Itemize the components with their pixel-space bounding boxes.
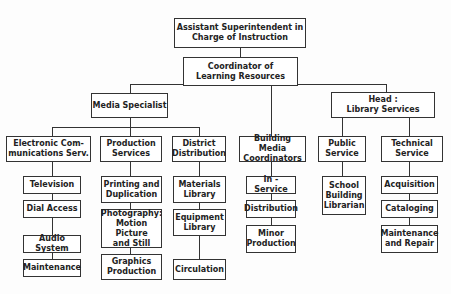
connector	[342, 162, 343, 176]
box-public: Public Service	[318, 136, 366, 162]
connector	[52, 218, 53, 235]
box-maintenance: Maintenance	[23, 259, 81, 277]
connector	[130, 118, 131, 127]
box-district: District Distribution	[172, 136, 226, 162]
connector	[298, 84, 386, 85]
box-production: Production Services	[100, 136, 162, 162]
box-acquisition: Acquisition	[381, 176, 438, 194]
connector	[409, 118, 410, 136]
connector	[130, 84, 183, 85]
connector	[199, 236, 200, 259]
connector	[199, 127, 200, 136]
box-printing: Printing and Duplication	[101, 176, 162, 203]
connector	[52, 127, 53, 136]
box-root: Assistant Superintendent in Charge of In…	[174, 18, 306, 48]
box-circulation: Circulation	[173, 259, 226, 280]
box-in-service: In - Service	[246, 176, 296, 194]
connector	[52, 127, 199, 128]
connector	[342, 118, 343, 136]
box-school-librarian: School Building Librarian	[322, 176, 366, 215]
box-dial-access: Dial Access	[23, 200, 81, 218]
box-head-library: Head : Library Services	[331, 92, 435, 118]
box-maintenance-repair: Maintenance and Repair	[381, 225, 438, 253]
connector	[386, 84, 387, 92]
box-minor-production: Minor Production	[246, 225, 296, 253]
connector	[130, 127, 131, 136]
box-photography: Photography: Motion Picture and Still	[101, 209, 162, 248]
box-building: Building Media Coordinators	[239, 136, 306, 162]
connector	[271, 84, 272, 136]
connector	[409, 162, 410, 176]
box-graphics: Graphics Production	[101, 254, 162, 280]
box-materials-library: Materials Library	[173, 176, 226, 203]
box-electronic: Electronic Com- munications Serv.	[6, 136, 91, 162]
box-equipment-library: Equipment Library	[173, 209, 226, 236]
connector	[409, 218, 410, 225]
box-distribution: Distribution	[246, 200, 296, 218]
box-media-specialist: Media Specialist	[91, 93, 168, 118]
box-coordinator: Coordinator of Learning Resources	[183, 57, 298, 86]
box-audio-system: Audio System	[23, 235, 81, 253]
connector	[52, 162, 53, 176]
box-cataloging: Cataloging	[381, 200, 438, 218]
box-technical: Technical Service	[381, 136, 443, 162]
connector	[271, 162, 272, 176]
connector	[271, 218, 272, 225]
box-television: Television	[23, 176, 81, 194]
connector	[199, 162, 200, 176]
connector	[130, 162, 131, 176]
